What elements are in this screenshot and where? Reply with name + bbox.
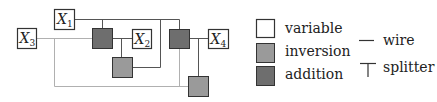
- inversion-box-1: [113, 58, 133, 78]
- addition-box-1: [93, 29, 113, 49]
- variable-x2: X2: [133, 30, 152, 49]
- legend-item-addition: addition: [257, 66, 344, 86]
- legend-swatch-variable: [257, 20, 275, 38]
- legend-item-wire: wire: [359, 32, 414, 48]
- legend-item-inversion: inversion: [257, 43, 351, 63]
- variable-x3: X3: [18, 29, 37, 49]
- legend-swatch-inversion: [257, 44, 275, 63]
- legend-swatch-addition: [257, 67, 275, 86]
- svg-text:wire: wire: [383, 32, 414, 48]
- svg-text:inversion: inversion: [285, 43, 351, 59]
- legend-item-variable: variable: [257, 20, 343, 38]
- variable-x1: X1: [55, 10, 75, 30]
- svg-text:variable: variable: [284, 20, 343, 36]
- legend-item-splitter: splitter: [360, 59, 435, 77]
- inversion-box-2: [189, 77, 209, 97]
- circuit-diagram: X1 X2 X3 X4 variable inversion addition: [0, 0, 437, 102]
- legend: variable inversion addition wire splitte…: [257, 20, 435, 86]
- svg-text:splitter: splitter: [383, 59, 435, 75]
- splitter-icon: [360, 64, 376, 78]
- addition-box-2: [170, 30, 190, 49]
- variable-x4: X4: [209, 30, 229, 49]
- svg-text:addition: addition: [285, 66, 343, 82]
